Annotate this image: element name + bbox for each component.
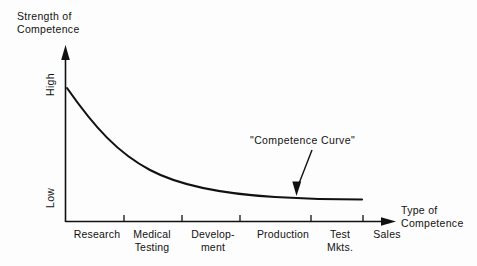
x-axis-category-label: Develop-ment bbox=[191, 228, 235, 254]
annotation-arrow bbox=[292, 150, 312, 196]
x-axis-category-label: MedicalTesting bbox=[133, 228, 171, 254]
y-axis-title: Strength of Competence bbox=[17, 10, 80, 36]
y-axis bbox=[61, 45, 70, 222]
competence-curve-annotation: "Competence Curve" bbox=[250, 134, 355, 147]
x-axis-ticks bbox=[124, 215, 363, 222]
x-axis bbox=[66, 217, 397, 226]
category-label-line2: ment bbox=[191, 241, 235, 254]
x-axis-title-line2: Competence bbox=[401, 217, 464, 230]
category-label-line1: Test bbox=[330, 228, 350, 240]
category-label-line2: Mkts. bbox=[327, 241, 353, 254]
category-label-line2: Testing bbox=[133, 241, 171, 254]
category-label-line1: Sales bbox=[373, 228, 400, 240]
y-axis-title-line1: Strength of bbox=[17, 10, 72, 22]
y-axis-arrowhead bbox=[61, 45, 70, 60]
y-axis-title-line2: Competence bbox=[17, 23, 80, 36]
category-label-line1: Medical bbox=[133, 228, 171, 240]
x-axis-title: Type of Competence bbox=[401, 204, 464, 230]
y-axis-label-low: Low bbox=[44, 188, 56, 208]
chart-figure: Strength of Competence Type of Competenc… bbox=[0, 0, 477, 266]
x-axis-category-label: Production bbox=[257, 228, 309, 241]
x-axis-category-label: TestMkts. bbox=[327, 228, 353, 254]
category-label-line1: Develop- bbox=[191, 228, 235, 240]
category-label-line1: Production bbox=[257, 228, 309, 240]
x-axis-title-line1: Type of bbox=[401, 204, 438, 216]
category-label-line1: Research bbox=[74, 228, 121, 240]
x-axis-category-label: Research bbox=[74, 228, 121, 241]
x-axis-category-label: Sales bbox=[373, 228, 400, 241]
y-axis-label-high: High bbox=[44, 73, 56, 96]
x-axis-arrowhead bbox=[381, 217, 396, 226]
